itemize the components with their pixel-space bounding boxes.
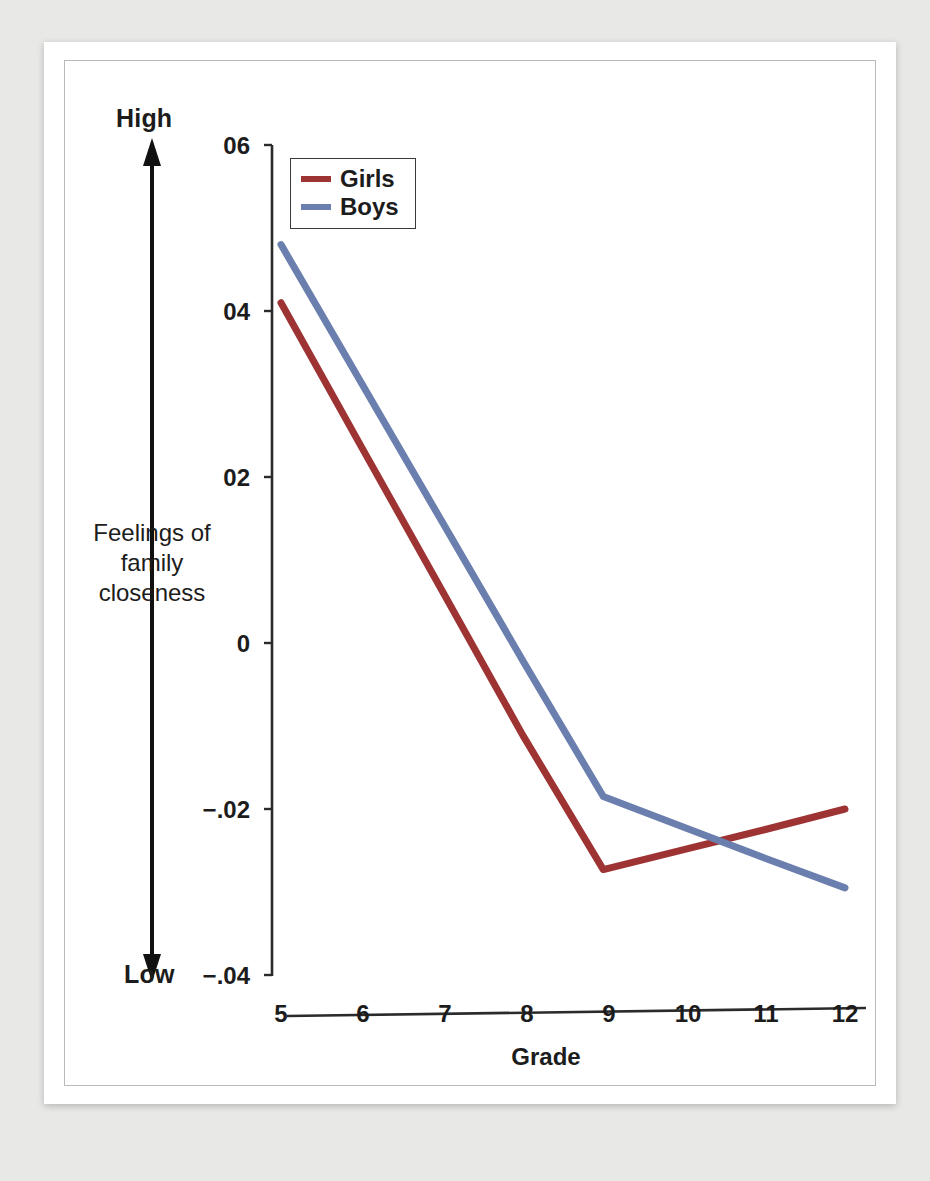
y-tick-label-1: 04: [158, 298, 250, 326]
x-tick-label-2: 7: [419, 1000, 471, 1028]
y-axis-high-label: High: [116, 104, 172, 133]
x-tick-label-3: 8: [501, 1000, 553, 1028]
y-tick-label-0: 06: [158, 132, 250, 160]
legend-swatch-girls: [301, 176, 331, 182]
x-tick-label-1: 6: [337, 1000, 389, 1028]
legend-swatch-boys: [301, 204, 331, 210]
x-tick-label-5: 10: [662, 1000, 714, 1028]
x-tick-label-0: 5: [255, 1000, 307, 1028]
y-tick-label-2: 02: [158, 464, 250, 492]
y-tick-label-4: −.02: [158, 796, 250, 824]
series-line-boys: [281, 245, 845, 888]
y-axis-title: Feelings of family closeness: [64, 518, 240, 608]
legend-label-boys: Boys: [340, 195, 399, 219]
x-axis-title: Grade: [466, 1043, 626, 1071]
legend-label-girls: Girls: [340, 167, 395, 191]
y-tick-label-5: −.04: [158, 962, 250, 990]
x-tick-label-6: 11: [740, 1000, 792, 1028]
x-tick-label-7: 12: [819, 1000, 871, 1028]
x-tick-label-4: 9: [583, 1000, 635, 1028]
legend-item-girls: Girls: [301, 165, 399, 193]
chart-legend: Girls Boys: [290, 158, 416, 229]
legend-item-boys: Boys: [301, 193, 399, 221]
y-tick-label-3: 0: [158, 630, 250, 658]
line-chart: High Low Feelings of family closeness 06…: [0, 0, 930, 1181]
